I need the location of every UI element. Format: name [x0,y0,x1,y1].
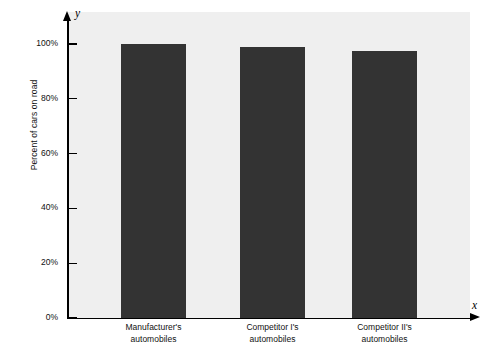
x-axis-category-label-line: Competitor II's [357,322,412,332]
bar [121,44,186,318]
x-axis-category-label-line: automobiles [325,334,445,346]
bars-layer [0,0,491,318]
x-axis-category-label-line: automobiles [94,334,214,346]
x-axis-category-label-line: automobiles [213,334,333,346]
bar-chart-figure: Percent of cars on road y x 0%20%40%60%8… [0,0,491,360]
bar [240,47,305,318]
x-axis-category-label: Competitor I'sautomobiles [213,322,333,345]
x-axis-category-label-line: Manufacturer's [126,322,182,332]
bar [352,51,417,318]
x-axis-category-label: Manufacturer'sautomobiles [94,322,214,345]
x-axis-category-label-line: Competitor I's [246,322,298,332]
x-axis-category-label: Competitor II'sautomobiles [325,322,445,345]
